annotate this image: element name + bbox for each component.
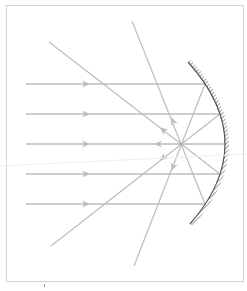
reflected-ray-1 xyxy=(134,84,205,266)
mirror-surface xyxy=(188,62,225,224)
concave-mirror xyxy=(188,60,229,226)
reflected-ray-4 xyxy=(49,42,220,174)
page-mark xyxy=(44,284,45,287)
arrow-down-icon xyxy=(168,162,177,172)
mirror-hatching xyxy=(188,60,229,226)
scan-artifact xyxy=(0,154,247,166)
incident-rays xyxy=(26,84,225,204)
arrow-up-left-icon xyxy=(158,125,169,135)
ray-diagram xyxy=(0,0,247,291)
focal-point xyxy=(180,143,182,145)
reflected-ray-2 xyxy=(51,114,220,246)
